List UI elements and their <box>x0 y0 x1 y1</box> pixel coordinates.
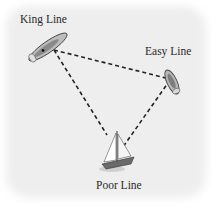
connection-easy-poor <box>123 80 170 147</box>
easy-line-ship-icon <box>162 68 182 96</box>
easy-line-label: Easy Line <box>145 45 191 57</box>
king-line-ship-icon <box>26 29 70 64</box>
poor-line-label: Poor Line <box>96 179 142 191</box>
king-line-label: King Line <box>20 13 67 25</box>
connection-king-poor <box>54 50 107 135</box>
diagram-canvas <box>0 0 212 207</box>
poor-line-sailboat-icon <box>99 131 134 172</box>
